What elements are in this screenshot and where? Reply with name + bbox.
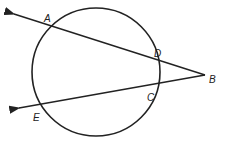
- label-b: B: [209, 74, 216, 85]
- circle: [32, 8, 160, 136]
- secant-ba: [14, 14, 205, 75]
- label-e: E: [33, 112, 40, 123]
- diagram-canvas: A D B C E: [0, 0, 235, 142]
- label-c: C: [147, 92, 155, 103]
- label-a: A: [43, 13, 51, 24]
- secant-diagram: A D B C E: [0, 0, 235, 142]
- label-d: D: [154, 48, 161, 59]
- secant-be: [19, 75, 205, 108]
